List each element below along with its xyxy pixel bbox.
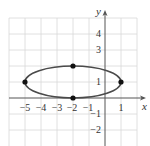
svg-text:3: 3 <box>96 44 101 55</box>
y-tick-labels: 4 3 1 −1 −2 <box>90 28 101 135</box>
point-top-covertex <box>70 63 75 68</box>
axes <box>9 12 144 146</box>
svg-text:1: 1 <box>96 76 101 87</box>
ellipse-graph: x y −5 −4 −3 −2 −1 1 4 3 1 −1 −2 <box>0 0 150 146</box>
svg-text:−3: −3 <box>52 102 63 113</box>
x-tick-labels: −5 −4 −3 −2 −1 1 <box>20 102 124 113</box>
point-bottom-covertex <box>70 95 75 100</box>
point-left-vertex <box>22 79 27 84</box>
svg-text:−4: −4 <box>36 102 47 113</box>
point-right-vertex <box>118 79 123 84</box>
svg-text:4: 4 <box>96 28 101 39</box>
x-axis-label: x <box>141 100 147 112</box>
svg-text:−2: −2 <box>90 124 101 135</box>
grid <box>9 18 137 146</box>
svg-text:−1: −1 <box>90 108 101 119</box>
svg-text:1: 1 <box>119 102 124 113</box>
svg-text:−5: −5 <box>20 102 31 113</box>
svg-text:−2: −2 <box>67 102 78 113</box>
y-axis-label: y <box>95 5 101 17</box>
